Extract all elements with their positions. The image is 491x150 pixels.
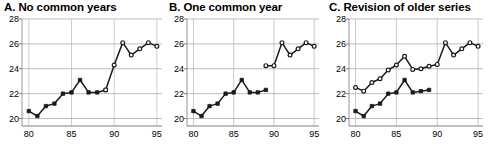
panel-b-title: B. One common year (169, 0, 282, 15)
y-axis-tick-label: 22 (336, 89, 346, 98)
y-axis-tick-label: 28 (174, 15, 184, 24)
panel-c-plot-area: 202224262880859095 (349, 19, 483, 126)
y-axis-tick-label: 20 (174, 114, 184, 123)
y-axis-tick-label: 26 (9, 39, 19, 48)
y-axis-tick-label: 26 (174, 39, 184, 48)
y-axis-tick-label: 24 (9, 64, 19, 73)
x-axis-tick-label: 85 (229, 130, 239, 139)
x-axis-tick-label: 80 (351, 130, 361, 139)
y-axis-tick-label: 20 (9, 114, 19, 123)
x-axis-tick-label: 95 (473, 130, 483, 139)
panel-c-svg (349, 19, 483, 126)
x-axis-tick-label: 95 (309, 130, 319, 139)
panel-a-plot-area: 202224262880859095 (22, 19, 162, 126)
panel-a-title: A. No common years (4, 0, 117, 15)
x-axis-tick-label: 90 (269, 130, 279, 139)
y-axis-tick-label: 24 (336, 64, 346, 73)
three-panel-line-chart-figure: A. No common years 202224262880859095 B.… (0, 0, 491, 150)
x-axis-tick-label: 90 (432, 130, 442, 139)
y-axis-tick-label: 22 (9, 89, 19, 98)
y-axis-tick-label: 24 (174, 64, 184, 73)
x-axis-tick-label: 95 (152, 130, 162, 139)
y-axis-tick-label: 22 (174, 89, 184, 98)
chart-panel-c: C. Revision of older series 202224262880… (325, 0, 491, 150)
x-axis-tick-label: 80 (24, 130, 34, 139)
chart-panel-b: B. One common year 202224262880859095 (165, 0, 325, 150)
x-axis-tick-label: 85 (391, 130, 401, 139)
panel-b-plot-area: 202224262880859095 (187, 19, 319, 126)
y-axis-tick-label: 28 (9, 15, 19, 24)
x-axis-tick-label: 85 (66, 130, 76, 139)
x-axis-tick-label: 80 (188, 130, 198, 139)
panel-c-title: C. Revision of older series (329, 0, 471, 15)
y-axis-tick-label: 20 (336, 114, 346, 123)
x-axis-tick-label: 90 (109, 130, 119, 139)
panel-b-svg (187, 19, 319, 126)
panel-a-svg (22, 19, 162, 126)
y-axis-tick-label: 28 (336, 15, 346, 24)
chart-panel-a: A. No common years 202224262880859095 (0, 0, 165, 150)
y-axis-tick-label: 26 (336, 39, 346, 48)
